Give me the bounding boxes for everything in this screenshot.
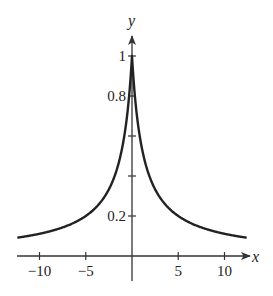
y-tick-label: 0.2 <box>107 208 126 224</box>
x-tick-label: −10 <box>28 263 51 279</box>
x-tick-label: −5 <box>78 263 94 279</box>
x-axis-label: x <box>251 248 259 265</box>
chart-canvas: x y −10−5510 0.20.81 <box>0 0 273 296</box>
x-tick-label: 5 <box>175 263 183 279</box>
y-tick-label: 0.8 <box>107 88 126 104</box>
y-tick-label: 1 <box>119 48 127 64</box>
x-tick-label: 10 <box>217 263 232 279</box>
y-axis-label: y <box>126 12 136 30</box>
